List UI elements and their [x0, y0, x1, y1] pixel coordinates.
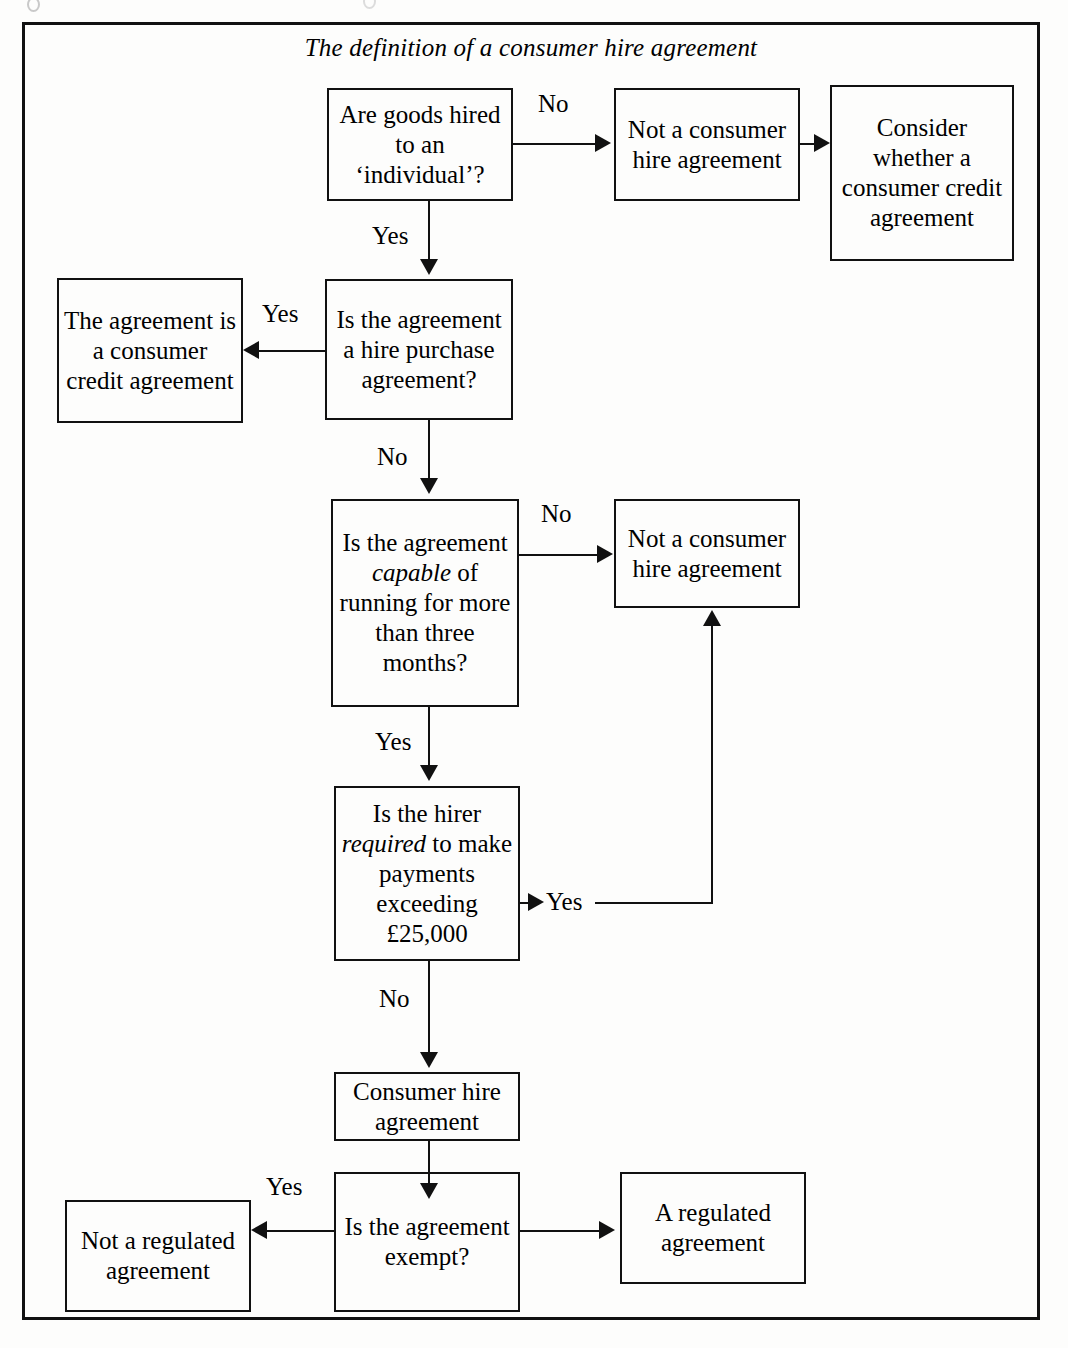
node-label: Are goods hired to an ‘individual’?: [333, 100, 507, 190]
figure-title: The definition of a consumer hire agreem…: [22, 33, 1040, 63]
node-label: Is the agreement capable of running for …: [337, 528, 513, 678]
node-label: Is the hirer required to make payments e…: [340, 799, 514, 949]
scan-speck: [363, 0, 376, 9]
node-consumer-hire-agreement: Consumer hire agreement: [334, 1072, 520, 1141]
node-label: The agreement is a consumer credit agree…: [63, 306, 237, 396]
node-agreement-is-consumer-credit-agreement: The agreement is a consumer credit agree…: [57, 278, 243, 423]
arrowhead-right: [595, 134, 611, 152]
arrowhead-left: [251, 1221, 267, 1239]
edge-label-hire-purchase-yes: Yes: [262, 300, 298, 328]
edge-label-hire-purchase-no: No: [377, 443, 408, 471]
edge-label-capable-yes: Yes: [375, 728, 411, 756]
connector-exempt-to-not-regulated: [267, 1230, 334, 1232]
connector-capable-to-not-chire-mid: [519, 554, 599, 556]
connector-payments-yes-vertical: [711, 626, 713, 904]
arrowhead-right: [597, 545, 613, 563]
node-label: Not a regulated agreement: [71, 1226, 245, 1286]
node-is-hirer-required-to-make-payments: Is the hirer required to make payments e…: [334, 786, 520, 961]
node-label: Not a consumer hire agreement: [620, 115, 794, 175]
node-a-regulated-agreement: A regulated agreement: [620, 1172, 806, 1284]
node-not-a-consumer-hire-agreement-mid: Not a consumer hire agreement: [614, 499, 800, 608]
edge-label-individual-no: No: [538, 90, 569, 118]
connector-hire-purchase-to-cca: [259, 350, 325, 352]
edge-label-exempt-yes: Yes: [266, 1173, 302, 1201]
node-label: Is the agreement exempt?: [340, 1212, 514, 1272]
node-label: A regulated agreement: [626, 1198, 800, 1258]
arrowhead-down: [420, 1052, 438, 1068]
node-label: Is the agreement a hire purchase agreeme…: [331, 305, 507, 395]
connector-capable-to-payments: [428, 707, 430, 769]
node-is-agreement-capable-three-months: Is the agreement capable of running for …: [331, 499, 519, 707]
connector-payments-to-consumer-hire: [428, 961, 430, 1056]
arrowhead-right: [599, 1221, 615, 1239]
edge-label-individual-yes: Yes: [372, 222, 408, 250]
arrowhead-down: [420, 259, 438, 275]
edge-label-payments-yes: Yes: [546, 888, 582, 916]
node-not-a-consumer-hire-agreement-top: Not a consumer hire agreement: [614, 88, 800, 201]
node-is-agreement-hire-purchase: Is the agreement a hire purchase agreeme…: [325, 279, 513, 420]
connector-hire-purchase-to-capable: [428, 420, 430, 482]
connector-individual-to-not-chire: [513, 143, 597, 145]
connector-payments-yes-horizontal: [595, 902, 713, 904]
node-not-a-regulated-agreement: Not a regulated agreement: [65, 1200, 251, 1312]
node-is-agreement-exempt: Is the agreement exempt?: [334, 1172, 520, 1312]
scan-speck: [27, 0, 40, 12]
arrowhead-up: [703, 610, 721, 626]
figure-page: The definition of a consumer hire agreem…: [0, 0, 1068, 1348]
node-label-emphasis: capable: [372, 559, 451, 586]
arrowhead-down: [420, 478, 438, 494]
connector-exempt-to-regulated: [520, 1230, 601, 1232]
connector-individual-to-hire-purchase: [428, 201, 430, 263]
node-label: Consumer hire agreement: [340, 1077, 514, 1137]
node-label-part: Is the agreement: [342, 529, 507, 556]
arrowhead-down: [420, 765, 438, 781]
edge-label-capable-no: No: [541, 500, 572, 528]
arrowhead-right: [528, 893, 544, 911]
edge-label-payments-no: No: [379, 985, 410, 1013]
node-label: Consider whether a consumer credit agree…: [836, 113, 1008, 233]
node-label-emphasis: required: [342, 830, 426, 857]
node-label-part: Is the hirer: [373, 800, 481, 827]
arrowhead-right: [814, 134, 830, 152]
node-are-goods-hired-to-individual: Are goods hired to an ‘individual’?: [327, 88, 513, 201]
node-label: Not a consumer hire agreement: [620, 524, 794, 584]
node-consider-consumer-credit-agreement: Consider whether a consumer credit agree…: [830, 85, 1014, 261]
arrowhead-left: [243, 341, 259, 359]
